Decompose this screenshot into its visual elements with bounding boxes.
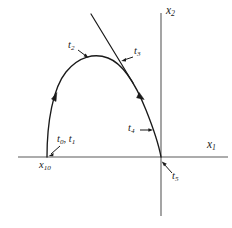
figure-canvas	[0, 0, 232, 228]
t3-label-sub: 3	[137, 50, 141, 58]
direction-arrowhead-ascending	[52, 93, 57, 102]
leader-arrow-t3	[121, 57, 133, 62]
x10-label-main: x	[39, 159, 44, 170]
direction-arrowhead-descending	[137, 93, 145, 100]
phase-plane-figure: x2 x1 t0, t1 t2 t3 t4 t5 x10	[0, 0, 232, 228]
leader-arrow-t4	[140, 128, 153, 132]
tangent-line	[91, 14, 133, 83]
leader-arrow-t2	[78, 50, 89, 58]
x1-axis-label: x1	[207, 139, 216, 151]
t0-label-sub: 0	[60, 138, 64, 146]
x2-axis-label-sub: 2	[171, 9, 175, 18]
t4-label-sub: 4	[131, 127, 135, 135]
t1-label-sub: 1	[72, 138, 76, 146]
t3-label: t3	[134, 46, 141, 57]
t5-label-sub: 5	[175, 175, 179, 183]
leader-arrow-t0t1	[49, 146, 60, 156]
leader-arrow-t5	[162, 162, 172, 173]
x10-label-sub: 10	[44, 164, 51, 172]
x10-label: x10	[39, 160, 51, 171]
x2-axis-label: x2	[166, 5, 175, 17]
x1-axis-label-sub: 1	[212, 143, 216, 152]
t4-label: t4	[128, 123, 135, 134]
t5-label: t5	[172, 171, 179, 182]
t0-t1-label: t0, t1	[57, 134, 75, 145]
t2-label-sub: 2	[71, 44, 75, 52]
t2-label: t2	[68, 40, 75, 51]
